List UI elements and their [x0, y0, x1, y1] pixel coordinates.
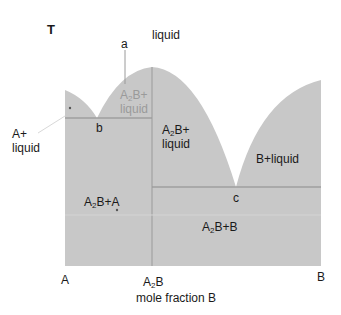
point-b-label: b [96, 121, 103, 135]
a-liquid-pointer [38, 116, 65, 133]
x-tick-b: B [317, 270, 325, 284]
region-liquid-label: liquid [152, 28, 180, 42]
x-tick-a2b: A2B [143, 275, 163, 289]
region-a2b-liquid-left-label: A2B+ liquid [120, 88, 148, 116]
two-phase-region [65, 67, 321, 266]
point-c-label: c [233, 191, 239, 205]
point-a-label: a [121, 37, 128, 51]
region-a2b-a-label: A2B+A [84, 195, 119, 209]
x-tick-a: A [61, 273, 69, 287]
marker-dot-2 [116, 209, 118, 211]
region-b-liquid-label: B+liquid [256, 152, 299, 166]
region-a2b-b-label: A2B+B [202, 220, 237, 234]
region-a-liquid-label: A+ liquid [12, 127, 40, 155]
region-a2b-liquid-right-label: A2B+ liquid [162, 123, 190, 151]
axis-t-label: T [47, 23, 55, 37]
x-axis-label: mole fraction B [136, 291, 216, 305]
marker-dot [69, 107, 71, 109]
